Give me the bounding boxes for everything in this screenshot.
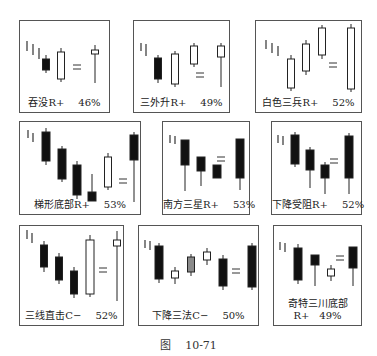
- candlestick-white: [191, 43, 198, 67]
- pattern-percent: 52%: [342, 199, 364, 210]
- candlestick-black: [345, 133, 353, 194]
- pattern-type: R+: [293, 310, 309, 321]
- pattern-panel: 白色三兵R+52%: [255, 20, 362, 113]
- pattern-caption: 奇特三川底部R+49%: [274, 298, 361, 322]
- pattern-name: 三线直击: [25, 310, 65, 321]
- candlestick-black: [294, 244, 302, 284]
- candlestick-white: [58, 48, 65, 82]
- pattern-type: C−: [192, 310, 208, 321]
- equals-icon: [217, 157, 225, 161]
- equals-icon: [232, 269, 240, 273]
- pattern-panel: 奇特三川底部R+49%: [273, 225, 362, 326]
- pattern-name: 三外升: [140, 97, 170, 108]
- pattern-percent: 49%: [319, 310, 341, 321]
- candlestick-black: [88, 174, 96, 201]
- equals-icon: [119, 179, 127, 183]
- candlestick-white: [348, 24, 355, 92]
- pattern-caption: 白色三兵R+52%: [256, 97, 361, 109]
- candlestick-black: [236, 139, 244, 190]
- candlestick-black: [43, 55, 50, 73]
- candlestick-white: [328, 265, 335, 281]
- equals-icon: [73, 65, 81, 69]
- candlestick-white: [105, 153, 112, 190]
- candlestick-black: [219, 255, 227, 290]
- pattern-percent: 53%: [233, 199, 255, 210]
- equals-icon: [336, 256, 344, 260]
- figure-label-prefix: 图: [160, 339, 171, 352]
- pattern-caption: 南方三星R+53%: [163, 199, 249, 211]
- pattern-caption: 下降三法C−50%: [139, 310, 258, 322]
- pattern-name: 梯形底部: [34, 199, 74, 210]
- pattern-name: 吞没: [28, 97, 48, 108]
- pattern-percent: 46%: [78, 97, 100, 108]
- candlestick-black: [155, 55, 162, 83]
- candlestick-black: [73, 161, 81, 199]
- candlestick-black: [306, 147, 314, 188]
- pattern-name: 白色三兵: [262, 97, 302, 108]
- candlestick-white: [86, 235, 94, 297]
- candlestick-white: [204, 248, 211, 265]
- candlestick-white: [114, 231, 121, 301]
- equals-icon: [196, 73, 204, 77]
- candlestick-black: [58, 146, 66, 182]
- candlestick-black: [155, 243, 163, 283]
- pattern-percent: 49%: [200, 97, 222, 108]
- candlestick-black: [213, 165, 221, 178]
- pattern-percent: 53%: [104, 199, 126, 210]
- candlestick-black: [71, 267, 78, 298]
- pattern-type: R+: [302, 97, 318, 108]
- pattern-panel: 梯形底部R+53%: [19, 121, 141, 215]
- equals-icon: [99, 268, 107, 272]
- pattern-percent: 50%: [222, 310, 244, 321]
- candlestick-black: [130, 132, 138, 202]
- candlestick-white: [92, 45, 99, 83]
- figure-caption: 图10-71: [0, 336, 377, 352]
- pattern-type: R+: [170, 97, 186, 108]
- pattern-name: 下降三法: [152, 310, 192, 321]
- pattern-type: C−: [65, 310, 81, 321]
- equals-icon: [330, 159, 338, 163]
- candlestick-white: [303, 40, 310, 75]
- pattern-panel: 吞没R+46%: [19, 20, 110, 113]
- candlestick-white: [288, 55, 295, 91]
- pattern-panel: 南方三星R+53%: [162, 121, 250, 215]
- pattern-name: 下降受阻: [272, 199, 312, 210]
- pattern-type: R+: [203, 199, 219, 210]
- pattern-panel: 三外升R+49%: [133, 20, 230, 113]
- pattern-name: 奇特三川底部: [288, 298, 348, 309]
- equals-icon: [329, 63, 337, 67]
- candlestick-black: [181, 140, 189, 191]
- pattern-caption: 梯形底部R+53%: [20, 199, 140, 211]
- candlestick-white: [218, 43, 225, 87]
- candlestick-black: [197, 157, 205, 186]
- pattern-percent: 52%: [95, 310, 117, 321]
- candlestick-black: [291, 132, 299, 167]
- candlestick-white: [172, 267, 179, 284]
- candlestick-black: [56, 253, 63, 284]
- pattern-caption: 下降受阻R+52%: [272, 199, 361, 211]
- candlestick-black: [349, 247, 357, 286]
- pattern-panel: 下降三法C−50%: [138, 225, 259, 326]
- candlestick-white: [172, 51, 179, 87]
- candlestick-black: [248, 243, 256, 290]
- pattern-panel: 三线直击C−52%: [19, 225, 124, 326]
- figure-label-number: 10-71: [185, 339, 217, 352]
- candlestick-gray: [188, 254, 195, 276]
- pattern-type: R+: [48, 97, 64, 108]
- pattern-name: 南方三星: [163, 199, 203, 210]
- pattern-caption: 三外升R+49%: [134, 97, 229, 109]
- candlestick-black: [41, 241, 48, 272]
- pattern-type: R+: [74, 199, 90, 210]
- candlestick-black: [42, 128, 50, 165]
- candlestick-black: [311, 255, 319, 286]
- pattern-percent: 52%: [332, 97, 354, 108]
- candlestick-black: [321, 162, 329, 194]
- candlestick-white: [319, 25, 326, 59]
- pattern-panel: 下降受阻R+52%: [271, 121, 362, 215]
- pattern-caption: 三线直击C−52%: [20, 310, 123, 322]
- pattern-caption: 吞没R+46%: [20, 97, 109, 109]
- pattern-type: R+: [312, 199, 328, 210]
